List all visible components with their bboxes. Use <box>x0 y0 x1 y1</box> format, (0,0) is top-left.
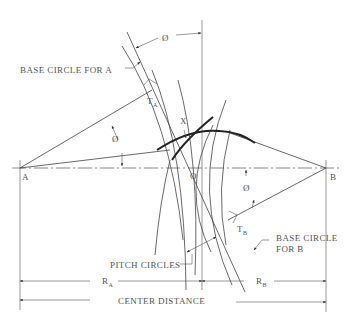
base-circle-b-arc <box>209 100 232 285</box>
line-b-to-contact <box>230 133 326 168</box>
label-phi-a: Ø <box>112 134 119 144</box>
label-point-o: O <box>190 171 197 181</box>
label-phi-top: Ø <box>162 33 169 43</box>
label-ta: TA <box>147 96 158 108</box>
base-circle-b-leader <box>254 240 269 250</box>
radius-line-a-ta <box>20 90 152 168</box>
label-base-circle-a: BASE CIRCLE FOR A <box>20 65 112 75</box>
outer-circle-b-arc <box>221 130 230 245</box>
phi-top-leader-left <box>136 38 158 48</box>
pitch-circles-leader <box>180 254 192 264</box>
gear-geometry-diagram: BASE CIRCLE FOR A BASE CIRCLE FOR B PITC… <box>0 0 355 324</box>
label-tb: TB <box>237 224 247 236</box>
pitch-circles-dim <box>187 237 216 252</box>
label-base-circle-b-1: BASE CIRCLE <box>276 233 338 243</box>
line-a-to-contact <box>20 150 170 168</box>
radius-line-b-tb <box>228 168 326 220</box>
pitch-circle-b-arc <box>196 125 213 252</box>
label-point-x: X <box>180 116 187 126</box>
label-point-a: A <box>22 172 29 182</box>
base-circle-a-arc <box>122 46 183 240</box>
label-rb: RB <box>256 276 267 288</box>
label-pitch-circles: PITCH CIRCLES <box>110 260 180 270</box>
label-center-distance: CENTER DISTANCE <box>118 296 205 306</box>
label-base-circle-b-2: FOR B <box>276 244 304 254</box>
pitch-circle-left-arc <box>155 160 170 255</box>
label-phi-b: Ø <box>243 183 250 193</box>
line-of-action <box>127 32 245 292</box>
label-ra: RA <box>102 276 113 288</box>
label-point-b: B <box>330 172 336 182</box>
phi-top-leader-right <box>176 33 201 35</box>
